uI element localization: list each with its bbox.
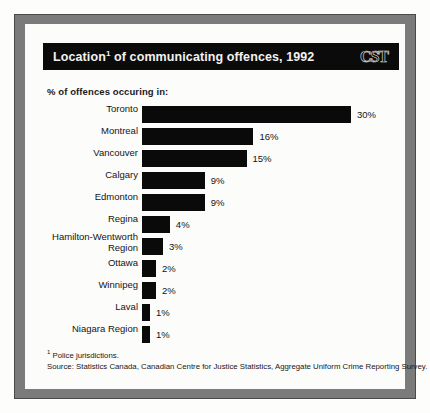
chart-bar-value: 30% xyxy=(357,109,376,120)
chart-bar-track: 4% xyxy=(142,216,405,233)
chart-row-label: Toronto xyxy=(0,104,138,115)
chart-bar-track: 1% xyxy=(142,326,405,343)
chart-bar-value: 1% xyxy=(156,307,170,318)
chart-row: Vancouver15% xyxy=(25,148,405,170)
figure-title-bar: Location1 of communicating offences, 199… xyxy=(43,43,399,70)
chart-bar xyxy=(142,238,163,255)
chart-bar-track: 9% xyxy=(142,194,405,211)
chart-bar-value: 1% xyxy=(156,329,170,340)
chart-row: Ottawa2% xyxy=(25,258,405,280)
chart-row: Edmonton9% xyxy=(25,192,405,214)
bar-chart: Toronto30%Montreal16%Vancouver15%Calgary… xyxy=(25,104,405,346)
chart-bar xyxy=(142,304,150,321)
cst-logo: CST xyxy=(360,48,390,66)
chart-row: Toronto30% xyxy=(25,104,405,126)
footnote-source: Source: Statistics Canada, Canadian Cent… xyxy=(47,361,397,372)
chart-row-label: Calgary xyxy=(0,170,138,181)
chart-bar-value: 9% xyxy=(211,197,225,208)
chart-bar xyxy=(142,128,253,145)
chart-bar xyxy=(142,150,247,167)
page-title: Location1 of communicating offences, 199… xyxy=(53,49,314,64)
chart-row: Hamilton-Wentworth Region3% xyxy=(25,236,405,258)
chart-bar-track: 30% xyxy=(142,106,405,123)
chart-row-label: Ottawa xyxy=(0,258,138,269)
figure-frame: Location1 of communicating offences, 199… xyxy=(14,14,416,399)
footnotes: 1 Police jurisdictions. Source: Statisti… xyxy=(47,347,397,372)
chart-row-label: Edmonton xyxy=(0,192,138,203)
chart-row-label: Hamilton-Wentworth Region xyxy=(0,232,138,253)
chart-bar xyxy=(142,282,156,299)
chart-bar xyxy=(142,194,205,211)
chart-bar-track: 1% xyxy=(142,304,405,321)
chart-bar xyxy=(142,260,156,277)
chart-bar-value: 16% xyxy=(259,131,278,142)
chart-row: Niagara Region1% xyxy=(25,324,405,346)
chart-row-label: Vancouver xyxy=(0,148,138,159)
footnote-note: 1 Police jurisdictions. xyxy=(47,347,397,361)
chart-bar-track: 2% xyxy=(142,260,405,277)
chart-row: Laval1% xyxy=(25,302,405,324)
chart-bar-value: 2% xyxy=(162,263,176,274)
chart-row-label: Winnipeg xyxy=(0,280,138,291)
chart-row: Winnipeg2% xyxy=(25,280,405,302)
chart-row-label: Niagara Region xyxy=(0,324,138,335)
chart-bar-track: 16% xyxy=(142,128,405,145)
chart-bar xyxy=(142,106,351,123)
chart-row-label: Laval xyxy=(0,302,138,313)
chart-bar-value: 9% xyxy=(211,175,225,186)
chart-row: Montreal16% xyxy=(25,126,405,148)
chart-bar-track: 2% xyxy=(142,282,405,299)
page-title-rest: of communicating offences, 1992 xyxy=(110,50,314,64)
chart-bar xyxy=(142,172,205,189)
chart-bar-track: 9% xyxy=(142,172,405,189)
page-title-main: Location xyxy=(53,50,106,64)
chart-bar-track: 15% xyxy=(142,150,405,167)
chart-bar-value: 2% xyxy=(162,285,176,296)
chart-bar-value: 3% xyxy=(169,241,183,252)
chart-bar-value: 15% xyxy=(253,153,272,164)
scanned-page: Location1 of communicating offences, 199… xyxy=(0,0,430,413)
chart-bar-value: 4% xyxy=(176,219,190,230)
footnote-note-text: Police jurisdictions. xyxy=(50,351,118,360)
chart-row-label: Montreal xyxy=(0,126,138,137)
chart-bar-track: 3% xyxy=(142,238,405,255)
chart-bar xyxy=(142,216,170,233)
chart-row: Calgary9% xyxy=(25,170,405,192)
chart-bar xyxy=(142,326,150,343)
figure-inner-panel: Location1 of communicating offences, 199… xyxy=(25,24,405,389)
chart-subtitle: % of offences occuring in: xyxy=(47,86,168,97)
chart-row-label: Regina xyxy=(0,214,138,225)
